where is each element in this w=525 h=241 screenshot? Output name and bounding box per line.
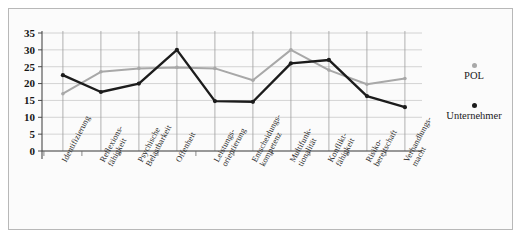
y-axis-tick-label: 25 — [24, 61, 36, 73]
chart-legend: POL Unternehmer — [433, 57, 515, 143]
data-point — [251, 78, 255, 82]
data-point — [99, 90, 103, 94]
data-point — [403, 105, 407, 109]
data-point — [289, 61, 293, 65]
data-point — [175, 66, 179, 70]
series-line-pol — [63, 50, 405, 94]
data-point — [327, 58, 331, 62]
legend-label-pol: POL — [433, 70, 515, 81]
legend-label-unternehmer: Unternehmer — [433, 110, 515, 121]
y-axis-tick-label: 15 — [24, 94, 36, 106]
data-point — [365, 82, 369, 86]
legend-dot-gray-icon — [472, 63, 477, 68]
data-point — [213, 67, 217, 71]
data-point — [137, 67, 141, 71]
data-point — [99, 70, 103, 74]
chart-figure: 05101520253035 IdentifizierungReflexions… — [8, 8, 513, 230]
legend-item-unternehmer: Unternehmer — [433, 103, 515, 121]
y-axis-tick-label: 35 — [24, 27, 36, 39]
y-axis-tick-label: 30 — [24, 44, 36, 56]
data-point — [403, 77, 407, 81]
data-point — [213, 99, 217, 103]
data-point — [61, 92, 65, 96]
y-axis-tick-label: 5 — [30, 128, 36, 140]
legend-item-pol: POL — [433, 63, 515, 81]
data-point — [327, 68, 331, 72]
data-point — [289, 48, 293, 52]
data-point — [175, 48, 179, 52]
data-point — [365, 94, 369, 98]
data-point — [251, 100, 255, 104]
y-axis-tick-label: 0 — [30, 145, 36, 157]
y-axis-tick-label: 20 — [24, 77, 36, 89]
y-axis-tick-label: 10 — [24, 111, 36, 123]
data-point — [137, 81, 141, 85]
data-point — [61, 73, 65, 77]
legend-dot-black-icon — [472, 103, 477, 108]
